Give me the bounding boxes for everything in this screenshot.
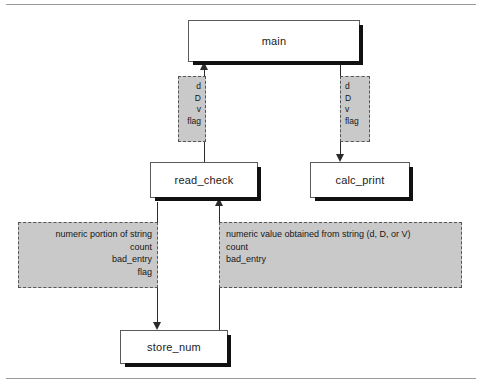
flow-item: D [345,93,369,105]
flow-item: count [19,241,152,254]
flow-item: bad_entry [226,253,461,266]
module-label: main [189,35,359,47]
module-box-main[interactable]: main [188,20,360,62]
flow-item: count [226,241,461,254]
flow-item: bad_entry [19,253,152,266]
flow-band-main-to-calc-print: d D v flag [340,76,370,142]
arrowhead-down-into-calc-print [336,154,344,162]
flow-item: flag [345,116,369,128]
flow-band-read-check-to-main: d D v flag [178,76,206,142]
arrowhead-down-into-store-num [153,322,161,330]
flow-item: v [345,104,369,116]
flow-item: flag [19,266,152,279]
flow-band-store-num-to-read-check: numeric value obtained from string (d, D… [219,222,462,288]
flow-item: D [179,93,201,105]
page-rule-bottom [6,378,476,379]
page-rule-top [6,4,476,5]
flow-item: d [345,81,369,93]
module-label: store_num [121,341,227,353]
flow-item: v [179,104,201,116]
module-label: calc_print [311,174,409,186]
module-label: read_check [151,174,257,186]
module-box-read-check[interactable]: read_check [150,162,258,198]
flow-item: flag [179,116,201,128]
flow-band-read-check-to-store-num: numeric portion of string count bad_entr… [18,222,158,288]
structure-chart-page: d D v flag d D v flag numeric portion of… [0,0,482,387]
flow-item: numeric portion of string [19,228,152,241]
module-box-store-num[interactable]: store_num [120,330,228,364]
flow-item: d [179,81,201,93]
module-box-calc-print[interactable]: calc_print [310,162,410,198]
flow-item: numeric value obtained from string (d, D… [226,228,461,241]
